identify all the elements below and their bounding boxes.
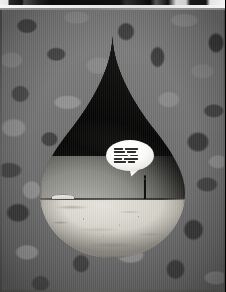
speech-bubble-text-segment — [114, 151, 125, 153]
person-body — [144, 179, 146, 199]
speech-bubble-text-segment — [114, 158, 122, 160]
speech-bubble-text-segment — [125, 148, 138, 150]
speech-bubble-text-segment — [114, 148, 123, 150]
speech-bubble-text-row — [114, 158, 146, 160]
droplet-ground-rim-shadow — [40, 199, 185, 258]
speech-bubble-text-row — [114, 161, 146, 163]
speech-bubble-text-segment — [114, 161, 126, 163]
droplet-container — [40, 36, 185, 258]
speech-bubble-text-segment — [130, 155, 138, 157]
image-canvas: Surreal grayscale photo-illustration of … — [0, 0, 225, 292]
film-edge-strip-secondary — [0, 5, 225, 8]
droplet-shape — [40, 36, 185, 258]
speech-bubble-text-lines — [114, 148, 146, 163]
standing-person-silhouette — [143, 175, 147, 199]
speech-bubble-text-segment — [114, 155, 128, 157]
horizon-mound — [52, 195, 74, 199]
frame-edge-left — [0, 9, 2, 292]
speech-bubble-text-row — [114, 151, 146, 153]
speech-bubble — [106, 140, 154, 176]
frame-edge-right — [224, 9, 226, 292]
film-edge-hairline — [0, 8, 225, 10]
speech-bubble-text-segment — [127, 151, 136, 153]
speech-bubble-text-segment — [124, 158, 138, 160]
speech-bubble-text-row — [114, 155, 146, 157]
speech-bubble-text-segment — [128, 161, 135, 163]
speech-bubble-text-row — [114, 148, 146, 150]
